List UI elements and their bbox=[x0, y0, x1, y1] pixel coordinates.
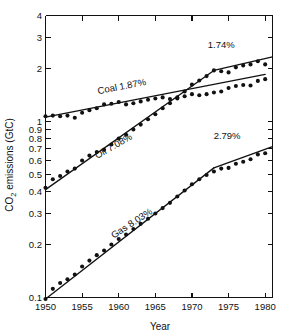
data-point-coal bbox=[109, 102, 113, 106]
data-point-gas bbox=[263, 151, 267, 155]
data-point-coal bbox=[124, 102, 128, 106]
data-point-coal bbox=[58, 114, 62, 118]
x-tick-label: 1950 bbox=[35, 301, 56, 312]
data-point-gas bbox=[205, 173, 209, 177]
x-tick-label: 1960 bbox=[108, 301, 129, 312]
data-point-oil bbox=[190, 83, 194, 87]
data-point-gas bbox=[73, 273, 77, 277]
data-point-oil bbox=[168, 101, 172, 105]
y-tick-label: 3 bbox=[37, 32, 42, 43]
chart-annotation: 1.74% bbox=[208, 39, 235, 50]
data-point-oil bbox=[227, 70, 231, 74]
data-point-coal bbox=[139, 99, 143, 103]
x-tick-label: 1965 bbox=[145, 301, 166, 312]
data-point-coal bbox=[197, 93, 201, 97]
data-point-oil bbox=[65, 169, 69, 173]
data-point-coal bbox=[219, 89, 223, 93]
data-point-oil bbox=[256, 59, 260, 63]
data-point-gas bbox=[219, 167, 223, 171]
data-point-oil bbox=[87, 154, 91, 158]
data-point-gas bbox=[87, 259, 91, 263]
x-axis-ticks bbox=[46, 16, 266, 298]
data-point-coal bbox=[146, 98, 150, 102]
data-point-gas bbox=[197, 177, 201, 181]
data-point-gas bbox=[248, 157, 252, 161]
data-point-oil bbox=[161, 106, 165, 110]
y-axis-title: CO2 emissions (GtC) bbox=[4, 118, 18, 212]
y-tick-label: 0.3 bbox=[29, 208, 42, 219]
data-point-oil bbox=[234, 65, 238, 69]
data-point-coal bbox=[212, 90, 216, 94]
data-point-gas bbox=[43, 297, 47, 301]
y-tick-label: 4 bbox=[37, 10, 42, 21]
data-point-coal bbox=[168, 97, 172, 101]
data-point-oil bbox=[205, 74, 209, 78]
plot-frame bbox=[46, 16, 273, 298]
data-point-oil bbox=[139, 123, 143, 127]
chart-annotation: Coal 1.87% bbox=[97, 76, 148, 96]
data-point-oil bbox=[212, 68, 216, 72]
data-point-coal bbox=[248, 83, 252, 87]
data-point-gas bbox=[212, 169, 216, 173]
data-point-oil bbox=[183, 89, 187, 93]
data-point-oil bbox=[197, 78, 201, 82]
data-point-coal bbox=[190, 92, 194, 96]
data-point-gas bbox=[227, 166, 231, 170]
y-tick-label: 1 bbox=[37, 116, 42, 127]
x-tick-label: 1970 bbox=[181, 301, 202, 312]
chart-annotation: 2.79% bbox=[214, 130, 241, 141]
data-point-coal bbox=[73, 116, 77, 120]
data-point-coal bbox=[205, 92, 209, 96]
y-axis-tick-labels: 0.10.20.30.40.50.60.70.80.91234 bbox=[29, 10, 42, 303]
data-point-coal bbox=[87, 108, 91, 112]
data-point-coal bbox=[241, 83, 245, 87]
data-point-oil bbox=[263, 62, 267, 66]
data-point-oil bbox=[73, 167, 77, 171]
data-point-gas bbox=[161, 206, 165, 210]
data-point-coal bbox=[183, 94, 187, 98]
y-tick-label: 0.2 bbox=[29, 239, 42, 250]
data-point-coal bbox=[51, 114, 55, 118]
fit-line-gas bbox=[214, 147, 273, 168]
data-point-coal bbox=[153, 96, 157, 100]
x-tick-label: 1955 bbox=[72, 301, 93, 312]
data-point-oil bbox=[219, 69, 223, 73]
chart-svg: 0.10.20.30.40.50.60.70.80.91234 19501955… bbox=[0, 0, 289, 336]
data-point-coal bbox=[227, 86, 231, 90]
y-tick-label: 2 bbox=[37, 63, 42, 74]
x-tick-label: 1980 bbox=[255, 301, 276, 312]
data-point-coal bbox=[263, 77, 267, 81]
data-point-oil bbox=[153, 112, 157, 116]
data-point-coal bbox=[65, 114, 69, 118]
data-point-coal bbox=[95, 106, 99, 110]
data-point-gas bbox=[95, 253, 99, 257]
data-point-coal bbox=[117, 100, 121, 104]
fit-line-gas bbox=[46, 168, 214, 299]
data-point-oil bbox=[43, 186, 47, 190]
data-point-gas bbox=[51, 287, 55, 291]
data-point-gas bbox=[256, 152, 260, 156]
axis-frame bbox=[46, 16, 273, 298]
y-tick-label: 0.5 bbox=[29, 169, 42, 180]
data-point-oil bbox=[248, 62, 252, 66]
trend-fit-lines bbox=[46, 57, 273, 299]
data-point-gas bbox=[241, 160, 245, 164]
y-tick-label: 0.6 bbox=[29, 155, 42, 166]
data-point-gas bbox=[58, 281, 62, 285]
data-point-oil bbox=[80, 158, 84, 162]
data-point-gas bbox=[234, 162, 238, 166]
data-point-coal bbox=[131, 101, 135, 105]
x-axis-title: Year bbox=[150, 321, 171, 332]
x-tick-label: 1975 bbox=[218, 301, 239, 312]
data-point-coal bbox=[80, 111, 84, 115]
chart-annotation: Gas 8.03% bbox=[109, 205, 155, 240]
data-point-gas bbox=[183, 189, 187, 193]
data-point-gas bbox=[190, 182, 194, 186]
y-tick-label: 0.7 bbox=[29, 143, 42, 154]
data-point-coal bbox=[234, 84, 238, 88]
data-point-gas bbox=[168, 201, 172, 205]
y-tick-label: 0.4 bbox=[29, 186, 42, 197]
x-axis-tick-labels: 1950195519601965197019751980 bbox=[35, 301, 276, 312]
data-point-coal bbox=[43, 114, 47, 118]
data-point-oil bbox=[131, 127, 135, 131]
